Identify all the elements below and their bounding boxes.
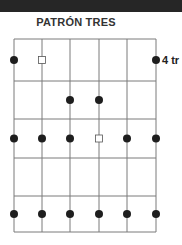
note-dot [10,56,18,64]
note-dot [152,56,160,64]
note-dot [10,210,18,218]
note-dot [95,210,103,218]
note-dot [152,210,160,218]
note-dot [10,135,18,143]
note-dot [38,210,46,218]
position-label: 4 tr [162,54,179,66]
note-dot [66,135,74,143]
note-dot [152,135,160,143]
note-dot [95,96,103,104]
note-dot [66,210,74,218]
note-dot [123,210,131,218]
root-note-square [96,135,103,142]
note-dot [38,135,46,143]
note-dot [66,96,74,104]
scale-diagram [0,0,182,245]
note-dot [123,135,131,143]
root-note-square [39,57,46,64]
